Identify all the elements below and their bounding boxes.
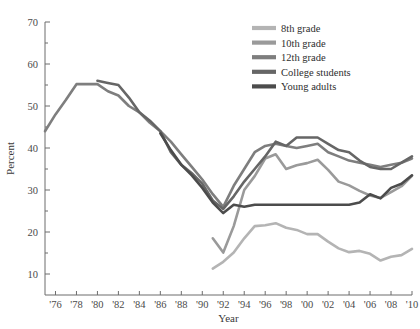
x-tick-label: '06 (364, 299, 376, 310)
x-tick-label: '78 (70, 299, 82, 310)
x-tick-label: '76 (49, 299, 61, 310)
x-tick-label: '86 (154, 299, 166, 310)
y-axis-title: Percent (4, 142, 16, 175)
y-tick-label: 40 (28, 143, 39, 154)
x-tick-label: '82 (112, 299, 124, 310)
x-tick-label: '84 (133, 299, 146, 310)
x-tick-label: '02 (322, 299, 334, 310)
x-tick-label: '04 (343, 299, 356, 310)
legend-label-8th-grade: 8th grade (281, 23, 321, 34)
y-tick-label: 50 (28, 101, 39, 112)
legend-label-young-adults: Young adults (281, 81, 336, 92)
x-tick-label: '08 (385, 299, 397, 310)
y-tick-label: 70 (28, 17, 39, 28)
x-tick-label: '10 (406, 299, 418, 310)
x-tick-label: '88 (175, 299, 187, 310)
legend-label-12th-grade: 12th grade (281, 52, 326, 63)
x-tick-label: '80 (91, 299, 103, 310)
x-axis-title: Year (218, 312, 239, 324)
y-tick-label: 30 (28, 185, 39, 196)
x-tick-label: '96 (259, 299, 271, 310)
x-tick-label: '94 (238, 299, 251, 310)
y-tick-label: 60 (28, 59, 39, 70)
x-tick-label: '98 (280, 299, 292, 310)
series-line-college-students (97, 81, 412, 209)
legend-label-10th-grade: 10th grade (281, 38, 326, 49)
chart-canvas: 10203040506070'76'78'80'82'84'86'88'90'9… (0, 0, 420, 329)
y-tick-label: 10 (28, 269, 39, 280)
line-chart: 10203040506070'76'78'80'82'84'86'88'90'9… (0, 0, 420, 329)
series-line-8th-grade (213, 223, 412, 268)
y-tick-label: 20 (28, 227, 39, 238)
x-tick-label: '90 (196, 299, 208, 310)
x-tick-label: '00 (301, 299, 313, 310)
legend-label-college-students: College students (281, 67, 351, 78)
x-tick-label: '92 (217, 299, 229, 310)
